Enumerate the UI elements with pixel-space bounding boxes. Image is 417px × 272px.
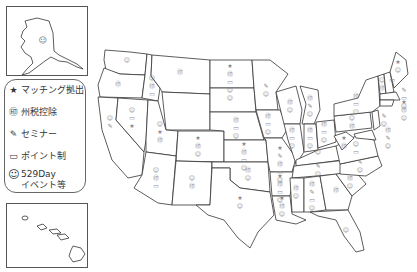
wv-coins-icon: ㊞ — [341, 142, 347, 150]
az-card-icon: ▭ — [153, 182, 159, 189]
me-star-icon: ★ — [395, 58, 400, 65]
ny-smiley-icon: ☺ — [353, 108, 359, 115]
wv-star-icon: ★ — [341, 134, 346, 141]
pa-coins-icon: ㊞ — [349, 122, 355, 130]
mo-coins-icon: ㊞ — [277, 160, 283, 168]
al-pen-icon: ✎ — [309, 188, 314, 195]
az-smiley-icon: ☺ — [153, 166, 159, 173]
ca-pen-icon: ✎ — [107, 122, 112, 129]
in-coins-icon: ㊞ — [307, 126, 313, 134]
nv-star-icon: ★ — [129, 122, 134, 129]
nh-card-icon: ▭ — [389, 76, 395, 83]
la-star-icon: ★ — [279, 194, 284, 201]
vt-smiley-icon: ☺ — [379, 76, 385, 83]
mi-coins-icon: ㊞ — [307, 94, 313, 102]
va-card-icon: ▭ — [353, 148, 359, 155]
oh-card-icon: ▭ — [321, 128, 327, 135]
ca-smiley-icon: ☺ — [107, 114, 113, 121]
ct-coins-icon: ㊞ — [401, 106, 407, 114]
state-md — [354, 130, 376, 140]
mo-pen-icon: ✎ — [277, 152, 282, 159]
wi-coins-icon: ㊞ — [287, 98, 293, 106]
ut-smiley-icon: ☺ — [157, 120, 163, 127]
nd-coins-icon: ㊞ — [227, 70, 233, 78]
sc-coins-icon: ㊞ — [347, 174, 353, 182]
al-smiley-icon: ☺ — [309, 204, 315, 211]
ar-coins-icon: ㊞ — [277, 180, 283, 188]
il-coins-icon: ㊞ — [289, 126, 295, 134]
sd-smiley-icon: ☺ — [227, 94, 233, 101]
co-coins-icon: ㊞ — [195, 142, 201, 150]
ia-card-icon: ▭ — [265, 120, 271, 127]
state-wy — [162, 92, 210, 130]
tx-smiley-icon: ☺ — [237, 202, 243, 209]
ne-coins-icon: ㊞ — [233, 116, 239, 124]
ar-star-icon: ★ — [277, 172, 282, 179]
ut-coins-icon: ㊞ — [157, 136, 163, 144]
ne-smiley-icon: ☺ — [233, 132, 239, 139]
tn-pen-icon: ✎ — [315, 162, 320, 169]
il-card-icon: ▭ — [289, 134, 295, 141]
mn-smiley-icon: ☺ — [263, 90, 269, 97]
mi-pen-icon: ✎ — [307, 102, 312, 109]
oh-smiley-icon: ☺ — [321, 136, 327, 143]
pa-smiley-icon: ☺ — [349, 114, 355, 121]
us-map: ☺㊞☺㊞▭㊞☺✎☺▭★☺★㊞★㊞☺☺㊞▭☺㊞★㊞▭☺☺㊞▭☺★㊞▭☺㊞☺★☺✎☺… — [0, 0, 417, 272]
ks-star-icon: ★ — [241, 140, 246, 147]
az-coins-icon: ㊞ — [153, 174, 159, 182]
co-smiley-icon: ☺ — [195, 150, 201, 157]
co-star-icon: ★ — [195, 134, 200, 141]
ky-smiley-icon: ☺ — [315, 148, 321, 155]
me-smiley-icon: ☺ — [395, 66, 401, 73]
id-coins-icon: ㊞ — [149, 82, 155, 90]
al-card-icon: ▭ — [309, 196, 315, 203]
nm-smiley-icon: ☺ — [189, 174, 195, 181]
nv-card-icon: ▭ — [129, 114, 135, 121]
wi-smiley-icon: ☺ — [287, 106, 293, 113]
sc-smiley-icon: ☺ — [347, 182, 353, 189]
nj-pen-icon: ✎ — [381, 112, 386, 119]
wa-smiley-icon: ☺ — [124, 56, 130, 63]
ks-card-icon: ▭ — [241, 156, 247, 163]
state-ct — [380, 100, 394, 106]
in-smiley-icon: ☺ — [307, 142, 313, 149]
ok-coins-icon: ㊞ — [245, 166, 251, 174]
ct-smiley-icon: ☺ — [401, 114, 407, 121]
ny-card-icon: ▭ — [353, 100, 359, 107]
ks-coins-icon: ㊞ — [241, 148, 247, 156]
in-card-icon: ▭ — [307, 134, 313, 141]
mo-star-icon: ★ — [277, 144, 282, 151]
ma-pen-icon: ✎ — [401, 86, 406, 93]
nd-smiley-icon: ☺ — [227, 86, 233, 93]
md-smiley-icon: ☺ — [385, 142, 391, 149]
il-smiley-icon: ☺ — [289, 142, 295, 149]
la-coins-icon: ㊞ — [279, 202, 285, 210]
id-smiley-icon: ☺ — [149, 74, 155, 81]
or-coins-icon: ㊞ — [115, 80, 121, 88]
ct-star-icon: ★ — [401, 98, 406, 105]
id-card-icon: ▭ — [149, 90, 155, 97]
md-coins-icon: ㊞ — [385, 126, 391, 134]
tx-star-icon: ★ — [237, 194, 242, 201]
vt-coins-icon: ㊞ — [379, 84, 385, 92]
ms-smiley-icon: ☺ — [293, 192, 299, 199]
state-fl — [310, 210, 364, 252]
md-pen-icon: ✎ — [385, 134, 390, 141]
nv-smiley-icon: ☺ — [129, 106, 135, 113]
ga-coins-icon: ㊞ — [333, 186, 339, 194]
ne-card-icon: ▭ — [233, 124, 239, 131]
nc-pen-icon: ✎ — [357, 158, 362, 165]
mi-smiley-icon: ☺ — [307, 110, 313, 117]
mn-pen-icon: ✎ — [263, 82, 268, 89]
nd-star-icon: ★ — [227, 62, 232, 69]
nd-card-icon: ▭ — [227, 78, 233, 85]
nc-smiley-icon: ☺ — [357, 166, 363, 173]
nm-coins-icon: ㊞ — [189, 182, 195, 190]
ok-smiley-icon: ☺ — [245, 174, 251, 181]
la-smiley-icon: ☺ — [279, 210, 285, 217]
ia-smiley-icon: ☺ — [265, 128, 271, 135]
fl-smiley-icon: ☺ — [343, 226, 349, 233]
mt-coins-icon: ㊞ — [177, 68, 183, 76]
ut-star-icon: ★ — [157, 128, 162, 135]
ms-coins-icon: ㊞ — [293, 184, 299, 192]
